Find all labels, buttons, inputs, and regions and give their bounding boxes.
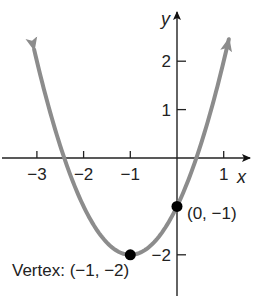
y-tick-label: 2 — [162, 52, 171, 71]
x-tick-label: −3 — [27, 165, 46, 184]
labeled-points: Vertex: (−1, −2)(0, −1) — [12, 201, 237, 280]
y-axis-label: y — [159, 9, 171, 29]
x-tick-label: −2 — [74, 165, 93, 184]
y-tick-label: −2 — [152, 246, 171, 265]
x-tick-label: −1 — [121, 165, 140, 184]
vertex-label: Vertex: (−1, −2) — [12, 261, 129, 280]
parabola-graph: −3−2−11 21−2 x y Vertex: (−1, −2)(0, −1) — [0, 0, 259, 296]
vertex-point — [125, 249, 136, 260]
y-intercept-label: (0, −1) — [187, 204, 237, 223]
x-tick-label: 1 — [219, 165, 228, 184]
y-intercept-point — [172, 201, 183, 212]
y-tick-label: 1 — [162, 101, 171, 120]
x-axis-label: x — [236, 167, 247, 187]
